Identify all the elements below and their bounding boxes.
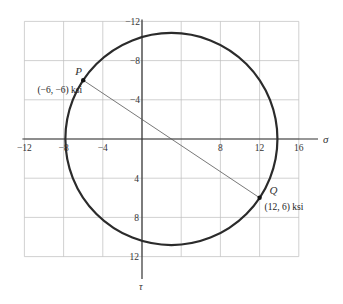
y-tick-label: −4	[130, 95, 140, 105]
x-tick-label: 12	[255, 143, 265, 153]
y-tick-label: 12	[130, 252, 140, 262]
point-q-marker	[257, 196, 261, 200]
point-p-name: P	[74, 65, 82, 77]
y-tick-label: −12	[125, 17, 140, 27]
x-tick-label: 8	[218, 143, 223, 153]
y-tick-label: 8	[134, 213, 139, 223]
y-tick-label: 4	[134, 174, 139, 184]
point-p-marker	[81, 78, 85, 82]
point-q-coords: (12, 6) ksi	[265, 202, 304, 213]
plot-canvas: −12−8−481216−12−8−44812 P(−6, −6) ksiQ(1…	[0, 0, 343, 304]
point-p-coords: (−6, −6) ksi	[37, 85, 82, 96]
mohr-circle-diagram: −12−8−481216−12−8−44812 P(−6, −6) ksiQ(1…	[0, 0, 343, 304]
sigma-axis-label: σ	[323, 133, 329, 145]
x-tick-label: −4	[98, 143, 108, 153]
x-tick-label: 16	[294, 143, 304, 153]
y-tick-label: −8	[130, 56, 140, 66]
x-tick-label: −12	[17, 143, 32, 153]
point-q-name: Q	[270, 184, 278, 196]
tau-axis-label: τ	[139, 281, 143, 292]
x-tick-label: −8	[59, 143, 69, 153]
